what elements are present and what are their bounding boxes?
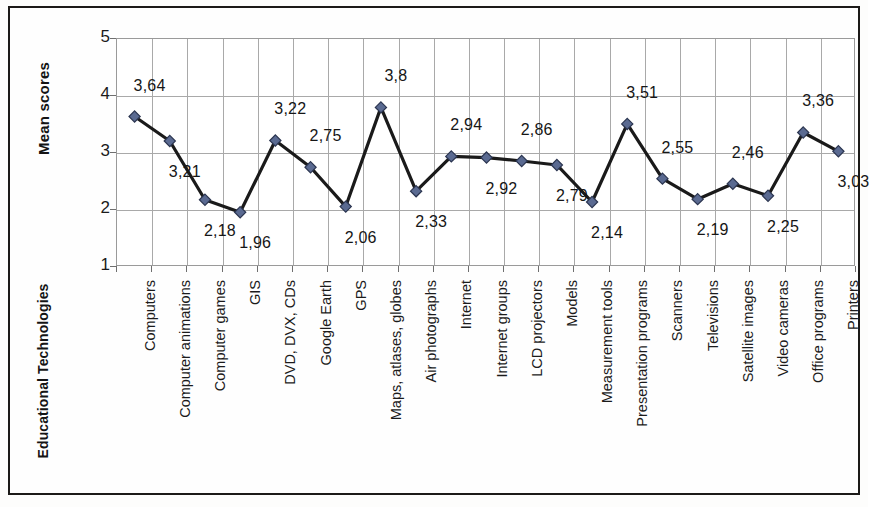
data-point-marker [375, 102, 386, 113]
x-axis-category-label: Printers [844, 276, 862, 506]
data-point-marker [833, 146, 844, 157]
data-point-marker [727, 178, 738, 189]
x-axis-category-label: GPS [352, 276, 370, 506]
x-axis-title: Educational Technologies [35, 276, 51, 466]
y-axis-title: Mean scores [35, 24, 52, 194]
data-value-label: 1,96 [239, 234, 271, 252]
data-value-label: 3,8 [385, 67, 408, 85]
x-axis-category-label: Computer games [211, 276, 229, 506]
data-value-label: 2,86 [521, 121, 553, 139]
x-axis-category-label: Google Earth [317, 276, 335, 506]
data-value-label: 2,75 [310, 127, 342, 145]
data-value-label: 2,94 [450, 116, 482, 134]
x-axis-category-label: Maps, atlases, globes [387, 276, 405, 506]
x-axis-category-label: Scanners [668, 276, 686, 506]
data-value-label: 2,18 [204, 222, 236, 240]
x-axis-category-label: Internet groups [493, 276, 511, 506]
data-value-label: 2,33 [415, 213, 447, 231]
data-value-label: 2,25 [767, 218, 799, 236]
x-axis-category-label: Air photographs [422, 276, 440, 506]
data-value-label: 3,22 [274, 100, 306, 118]
x-axis-category-label: GIS [246, 276, 264, 506]
x-axis-category-label: Models [563, 276, 581, 506]
x-axis-category-label: Satellite images [739, 276, 757, 506]
x-axis-category-label: Internet [457, 276, 475, 506]
y-axis-tick-label: 2 [88, 198, 110, 218]
data-value-label: 3,21 [169, 163, 201, 181]
x-axis-category-label: Presentation programs [633, 276, 651, 506]
chart-frame: Mean scores Educational Technologies 123… [8, 6, 860, 495]
x-axis-category-label: Televisions [704, 276, 722, 506]
data-value-label: 2,79 [556, 187, 588, 205]
y-axis-tick-label: 1 [88, 255, 110, 275]
data-value-label: 2,46 [732, 144, 764, 162]
x-axis-category-label: DVD, DVX, CDs [281, 276, 299, 506]
data-point-marker [516, 155, 527, 166]
data-value-label: 2,06 [345, 229, 377, 247]
data-value-label: 2,19 [697, 221, 729, 239]
data-value-label: 3,51 [626, 84, 658, 102]
data-value-label: 3,64 [134, 77, 166, 95]
x-axis-category-label: Office programs [809, 276, 827, 506]
y-axis-tick-label: 4 [88, 84, 110, 104]
x-axis-category-label: Computer animations [176, 276, 194, 506]
data-value-label: 2,92 [486, 180, 518, 198]
data-value-label: 3,03 [837, 173, 869, 191]
x-axis-category-label: LCD projectors [528, 276, 546, 506]
x-axis-category-label: Video cameras [774, 276, 792, 506]
data-point-marker [235, 207, 246, 218]
data-value-label: 2,55 [661, 139, 693, 157]
data-value-label: 2,14 [591, 224, 623, 242]
y-axis-tick-label: 5 [88, 27, 110, 47]
data-point-marker [481, 152, 492, 163]
x-axis-category-label: Measurement tools [598, 276, 616, 506]
x-axis-category-label: Computers [141, 276, 159, 506]
y-axis-tick-label: 3 [88, 141, 110, 161]
data-value-label: 3,36 [802, 92, 834, 110]
